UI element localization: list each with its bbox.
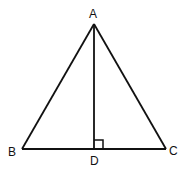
label-a: A [89,7,97,21]
triangle-diagram: A B C D [0,0,187,171]
label-d: D [90,154,99,168]
label-c: C [169,144,178,158]
segment-ab [22,24,94,149]
label-b: B [8,145,16,159]
right-angle-marker [94,140,103,149]
segment-ac [94,24,166,149]
diagram-canvas: A B C D [0,0,187,171]
